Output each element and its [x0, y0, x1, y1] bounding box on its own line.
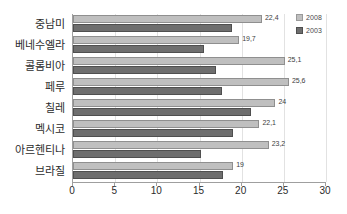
bar-2003-브라질 — [73, 171, 223, 179]
bar-value-label: 22,4 — [265, 13, 279, 23]
bar-2008-중남미 — [73, 15, 262, 23]
x-tick-label: 0 — [69, 185, 75, 196]
bar-value-label: 23,2 — [272, 139, 286, 149]
bar-2003-아르헨티나 — [73, 150, 201, 158]
x-tick-label: 5 — [111, 185, 117, 196]
bar-2003-베네수엘라 — [73, 45, 204, 53]
plot-area: 22,419,725,125,62422,123,219 — [72, 14, 326, 182]
bar-value-label: 19 — [236, 160, 244, 170]
category-label-1: 베네수엘라 — [15, 35, 65, 56]
bar-2003-페루 — [73, 87, 222, 95]
bar-group: 25,1 — [73, 56, 326, 77]
category-label-0: 중남미 — [35, 14, 65, 35]
bar-2003-멕시코 — [73, 129, 233, 137]
bar-2008-아르헨티나 — [73, 141, 269, 149]
category-axis: 중남미 베네수엘라 콜롬비아 페루 칠레 멕시코 아르헨티나 브라질 — [0, 14, 69, 182]
bar-2003-중남미 — [73, 24, 232, 32]
bar-value-label: 19,7 — [242, 34, 256, 44]
x-tick-label: 30 — [319, 185, 330, 196]
category-label-6: 아르헨티나 — [15, 140, 65, 161]
bar-group: 22,4 — [73, 14, 326, 35]
bar-2008-콜롬비아 — [73, 57, 285, 65]
x-tick-label: 25 — [277, 185, 288, 196]
bar-group: 23,2 — [73, 140, 326, 161]
x-axis — [72, 182, 325, 183]
bar-2008-페루 — [73, 78, 289, 86]
category-label-5: 멕시코 — [35, 119, 65, 140]
bar-group: 24 — [73, 98, 326, 119]
bar-chart: 2008 2003 중남미 베네수엘라 콜롬비아 페루 칠레 멕시코 아르헨티나… — [0, 0, 347, 214]
bar-2008-멕시코 — [73, 120, 259, 128]
bar-value-label: 25,6 — [292, 76, 306, 86]
bar-2008-베네수엘라 — [73, 36, 239, 44]
x-tick-label: 15 — [193, 185, 204, 196]
bar-2008-브라질 — [73, 162, 233, 170]
bar-2003-콜롬비아 — [73, 66, 216, 74]
bar-value-label: 24 — [278, 97, 286, 107]
bar-2003-칠레 — [73, 108, 251, 116]
bar-group: 19,7 — [73, 35, 326, 56]
x-tick-label: 10 — [151, 185, 162, 196]
category-label-3: 페루 — [45, 77, 65, 98]
category-label-2: 콜롬비아 — [25, 56, 65, 77]
category-label-7: 브라질 — [35, 161, 65, 182]
x-tick-label: 20 — [235, 185, 246, 196]
bar-value-label: 22,1 — [262, 118, 276, 128]
category-label-4: 칠레 — [45, 98, 65, 119]
bar-value-label: 25,1 — [288, 55, 302, 65]
bar-group: 25,6 — [73, 77, 326, 98]
gridline — [326, 14, 327, 182]
bar-2008-칠레 — [73, 99, 275, 107]
bar-group: 19 — [73, 161, 326, 182]
bar-group: 22,1 — [73, 119, 326, 140]
